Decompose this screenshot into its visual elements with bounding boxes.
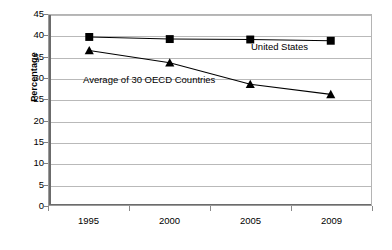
x-axis-tick-mark <box>372 206 373 211</box>
x-axis-tick-mark <box>48 206 49 211</box>
x-axis-tick-label: 2000 <box>140 215 200 226</box>
x-axis-tick-mark <box>210 206 211 211</box>
data-point-square <box>166 35 174 43</box>
series-layer <box>49 15 371 205</box>
y-axis-tick-label: 40 <box>22 30 44 40</box>
series-label-oecd-average: Average of 30 OECD Countries <box>83 74 215 85</box>
y-axis-tick-label: 5 <box>22 180 44 190</box>
y-axis-tick-label: 45 <box>22 9 44 19</box>
x-axis-tick-mark <box>291 206 292 211</box>
data-point-triangle <box>85 46 94 54</box>
series-line <box>89 50 331 94</box>
y-axis-tick-label: 35 <box>22 52 44 62</box>
y-axis-tick-label: 25 <box>22 94 44 104</box>
x-axis-tick-label: 2005 <box>221 215 281 226</box>
plot-area <box>48 14 372 206</box>
series-oecd-average <box>85 46 336 98</box>
y-axis-tick-label: 20 <box>22 116 44 126</box>
data-point-square <box>327 37 335 45</box>
line-chart: Percentage 051015202530354045 1995200020… <box>0 0 392 250</box>
y-axis-tick-label: 30 <box>22 73 44 83</box>
series-label-united-states: United States <box>251 41 308 52</box>
y-axis-tick-label: 0 <box>22 201 44 211</box>
x-axis-tick-label: 1995 <box>59 215 119 226</box>
data-point-square <box>85 33 93 41</box>
y-axis-tick-label: 10 <box>22 158 44 168</box>
y-axis-tick-labels: 051015202530354045 <box>20 0 44 250</box>
x-axis-tick-mark <box>129 206 130 211</box>
y-axis-tick-label: 15 <box>22 137 44 147</box>
x-axis-tick-label: 2009 <box>302 215 362 226</box>
